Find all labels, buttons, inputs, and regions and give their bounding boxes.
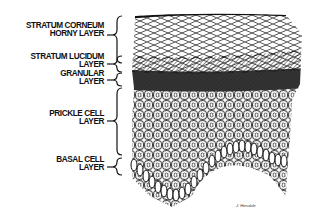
epidermis-illustration [0, 0, 316, 213]
bracket-granular [107, 73, 122, 86]
artist-signature: J. Hinsdale [236, 203, 256, 208]
bracket-prickle [107, 88, 122, 155]
bracket-basal [107, 158, 122, 175]
bracket-lucidum [107, 56, 122, 72]
